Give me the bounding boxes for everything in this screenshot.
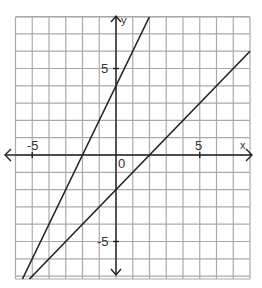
x-tick-label-5: 5 <box>195 138 202 153</box>
y-tick-label-neg5: -5 <box>97 234 109 249</box>
origin-label: 0 <box>118 156 125 171</box>
plot-line-steep <box>22 17 149 279</box>
grid <box>16 17 251 279</box>
x-tick-label-neg5: -5 <box>27 138 39 153</box>
coordinate-plane: y x 0 5 -5 5 -5 <box>0 0 262 288</box>
y-axis-label: y <box>121 14 127 26</box>
x-axis-label: x <box>240 139 246 151</box>
y-tick-label-5: 5 <box>101 61 108 76</box>
plotted-lines <box>22 17 250 279</box>
axes <box>5 16 252 275</box>
